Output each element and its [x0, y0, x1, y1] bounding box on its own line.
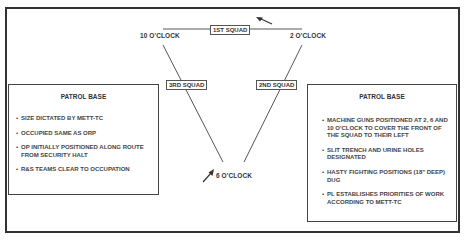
third-squad-line — [163, 45, 223, 162]
left-patrol-base-panel: PATROL BASE SIZE DICTATED BY METT-TC OCC… — [8, 84, 159, 195]
list-item: SIZE DICTATED BY METT-TC — [16, 115, 156, 123]
six-oclock-label: 6 O'CLOCK — [216, 172, 252, 179]
list-item: OCCUPIED SAME AS ORP — [16, 130, 156, 138]
left-panel-list: SIZE DICTATED BY METT-TC OCCUPIED SAME A… — [16, 115, 156, 174]
ten-oclock-label: 10 O'CLOCK — [140, 32, 180, 39]
arrow-icon-top — [256, 17, 272, 24]
two-oclock-label: 2 O'CLOCK — [290, 32, 326, 39]
second-squad-line — [244, 45, 302, 162]
list-item: PL ESTABLISHES PRIORITIES OF WORK ACCORD… — [322, 191, 450, 206]
list-item: MACHINE GUNS POSITIONED AT 2, 6 AND 10 O… — [322, 117, 450, 140]
right-panel-list: MACHINE GUNS POSITIONED AT 2, 6 AND 10 O… — [322, 117, 450, 206]
second-squad-label: 2ND SQUAD — [256, 80, 297, 90]
third-squad-label: 3RD SQUAD — [166, 80, 207, 90]
right-patrol-base-panel: PATROL BASE MACHINE GUNS POSITIONED AT 2… — [307, 84, 457, 222]
list-item: HASTY FIGHTING POSITIONS (18" DEEP) DUG — [322, 169, 450, 184]
right-panel-title: PATROL BASE — [308, 93, 456, 100]
list-item: R&S TEAMS CLEAR TO OCCUPATION — [16, 166, 156, 174]
list-item: OP INITIALLY POSITIONED ALONG ROUTE FROM… — [16, 144, 156, 159]
list-item: SLIT TRENCH AND URINE HOLES DESIGNATED — [322, 147, 450, 162]
arrow-icon-bottom — [203, 169, 214, 182]
left-panel-title: PATROL BASE — [9, 93, 158, 100]
first-squad-label: 1ST SQUAD — [210, 25, 250, 35]
